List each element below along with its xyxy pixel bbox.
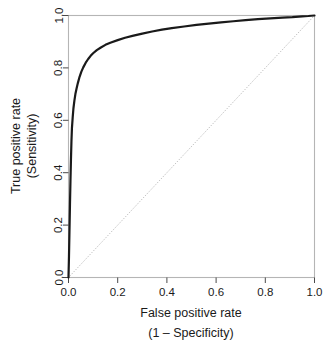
x-tick-label: 0.2	[110, 286, 126, 298]
y-tick-label: 0.6	[53, 112, 65, 128]
x-tick-label: 0.6	[208, 286, 224, 298]
x-tick-label: 1.0	[307, 286, 323, 298]
x-tick-label: 0.4	[159, 286, 176, 298]
y-tick-label: 0.2	[53, 217, 65, 233]
y-tick-label: 0.0	[53, 270, 65, 286]
y-tick-label: 0.4	[53, 164, 65, 181]
x-tick-label: 0.0	[61, 286, 77, 298]
x-tick-label: 0.8	[257, 286, 273, 298]
x-axis-title: False positive rate	[140, 306, 241, 320]
y-tick-label: 1.0	[53, 8, 65, 24]
roc-plot-svg: 0.00.20.40.60.81.0 0.00.20.40.60.81.0 Fa…	[0, 0, 334, 345]
y-axis-subtitle: (Sensitivity)	[25, 114, 39, 179]
y-tick-label: 0.8	[53, 60, 65, 76]
y-axis-title: True positive rate	[9, 98, 23, 194]
x-axis-subtitle: (1 – Specificity)	[148, 326, 233, 340]
roc-chart-figure: 0.00.20.40.60.81.0 0.00.20.40.60.81.0 Fa…	[0, 0, 334, 345]
